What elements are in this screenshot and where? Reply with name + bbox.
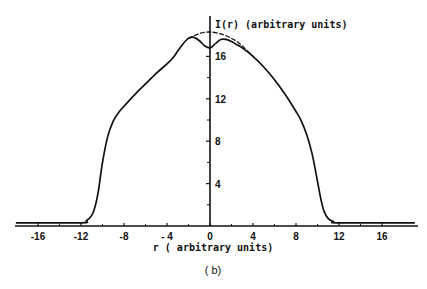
x-tick-label: -12 (74, 231, 89, 242)
x-tick-label: 8 (293, 231, 299, 242)
line-chart: -16-12-8- 40481216 481216 I(r) (arbitrar… (0, 0, 427, 289)
x-tick-label: 4 (250, 231, 256, 242)
y-tick-label: 8 (215, 136, 221, 147)
x-tick-label: -8 (120, 231, 129, 242)
x-tick-label: 16 (376, 231, 388, 242)
x-axis-label: r ( arbitrary units) (153, 242, 273, 253)
x-tick-label: 12 (333, 231, 345, 242)
y-axis-label: I(r) (arbitrary units) (215, 19, 347, 30)
x-axis: -16-12-8- 40481216 (15, 223, 418, 242)
x-tick-label: 0 (207, 231, 213, 242)
y-tick-label: 12 (215, 94, 227, 105)
x-tick-label: -16 (31, 231, 46, 242)
x-tick-label: - 4 (161, 231, 173, 242)
y-tick-label: 16 (215, 51, 227, 62)
figure-caption: ( b) (205, 264, 222, 276)
solid-series-line (17, 37, 415, 223)
y-tick-label: 4 (215, 179, 221, 190)
